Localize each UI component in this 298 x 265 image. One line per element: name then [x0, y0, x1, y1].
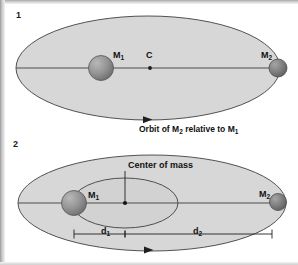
binary-orbit-figure: 1 M1 C M2 Orbit of M2 relative to M1 2 C… — [0, 0, 298, 265]
panel-2-m2-subscript: 2 — [267, 193, 271, 200]
panel-2-center-of-mass-point — [123, 201, 127, 205]
panel-2-d2-symbol: d — [193, 226, 199, 236]
panel-1-m2-symbol: M — [261, 50, 269, 60]
panel-1-m1-symbol: M — [113, 50, 121, 60]
panel-2-m1-label: M1 — [88, 190, 99, 200]
panel-1-graphics — [16, 16, 287, 123]
panel-1-m2-label: M2 — [261, 50, 272, 60]
panel-2-m1-subscript: 1 — [96, 194, 100, 201]
panel-2-center-of-mass-label: Center of mass — [128, 160, 193, 170]
panel-2-number: 2 — [13, 139, 18, 149]
panel-1-center-label: C — [146, 50, 153, 60]
panel-1-caption: Orbit of M2 relative to M1 — [139, 124, 238, 134]
panel-2-m2-symbol: M — [259, 189, 267, 199]
panel-1-m1-label: M1 — [113, 50, 124, 60]
panel-1-m2-subscript: 2 — [269, 54, 273, 61]
panel-2-d1-symbol: d — [101, 226, 107, 236]
panel-2-d2-subscript: 2 — [199, 230, 203, 237]
panel-1-body-m1 — [89, 56, 114, 81]
panel-2-d2-label: d2 — [193, 226, 202, 236]
panel-1-caption-sub2: 1 — [235, 128, 239, 135]
panel-1-body-m2 — [269, 59, 287, 77]
panel-2-d1-label: d1 — [101, 226, 110, 236]
panel-1-caption-mid: relative to M — [183, 124, 235, 134]
panel-2-m2-label: M2 — [259, 189, 270, 199]
panel-1-number: 1 — [16, 10, 21, 20]
panel-1-center-point — [148, 66, 152, 70]
panel-2-d1-subscript: 1 — [107, 230, 111, 237]
panel-2-body-m2 — [270, 194, 287, 211]
panel-2-body-m1 — [62, 191, 87, 216]
panel-2-m1-symbol: M — [88, 190, 96, 200]
panel-1-caption-sub1: 2 — [179, 128, 183, 135]
panel-1-caption-pre: Orbit of M — [139, 124, 179, 134]
panel-1-m1-subscript: 1 — [121, 54, 125, 61]
